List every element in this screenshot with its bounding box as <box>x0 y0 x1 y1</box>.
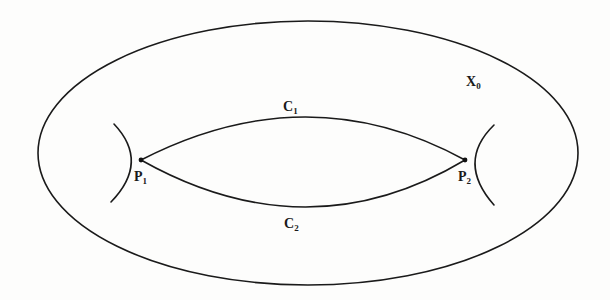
curve-c1 <box>141 117 465 160</box>
label-p2: P2 <box>458 169 472 186</box>
label-c1: C1 <box>283 99 298 116</box>
surface-diagram: X0 C1 C2 P1 P2 <box>0 0 610 300</box>
point-p1-marker <box>139 158 144 163</box>
outer-surface-boundary <box>38 21 578 285</box>
label-x0: X0 <box>466 74 481 91</box>
curve-c2 <box>141 160 465 207</box>
label-p1: P1 <box>134 169 148 186</box>
left-crossing-arc <box>111 124 131 202</box>
label-c2: C2 <box>284 216 299 233</box>
point-p2-marker <box>463 158 468 163</box>
right-crossing-arc <box>475 125 494 205</box>
